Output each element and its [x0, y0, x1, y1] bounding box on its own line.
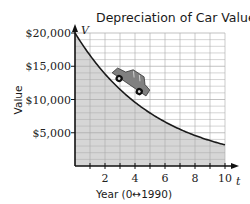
chart-title: Depreciation of Car Value [96, 10, 250, 25]
y-ticks: $5,000$10,000$15,000$20,000 [26, 27, 76, 140]
x-axis-arrow-icon [231, 163, 239, 169]
depreciation-chart: Depreciation of Car Value V t $5,000$10,… [0, 0, 250, 204]
y-tick-label: $5,000 [33, 127, 72, 140]
x-variable-label: t [236, 175, 241, 188]
x-tick-label: 8 [192, 172, 199, 185]
y-axis-label: Value [12, 86, 24, 115]
y-tick-label: $10,000 [26, 94, 72, 107]
y-variable-label: V [81, 24, 90, 37]
x-tick-label: 2 [102, 172, 109, 185]
x-tick-label: 4 [132, 172, 139, 185]
x-axis-label: Year (0↔1990) [95, 188, 172, 200]
x-tick-label: 10 [218, 172, 232, 185]
grid-lines [75, 33, 225, 166]
y-tick-label: $15,000 [26, 60, 72, 73]
y-axis-arrow-icon [72, 24, 78, 32]
y-tick-label: $20,000 [26, 27, 72, 40]
x-tick-label: 6 [162, 172, 169, 185]
